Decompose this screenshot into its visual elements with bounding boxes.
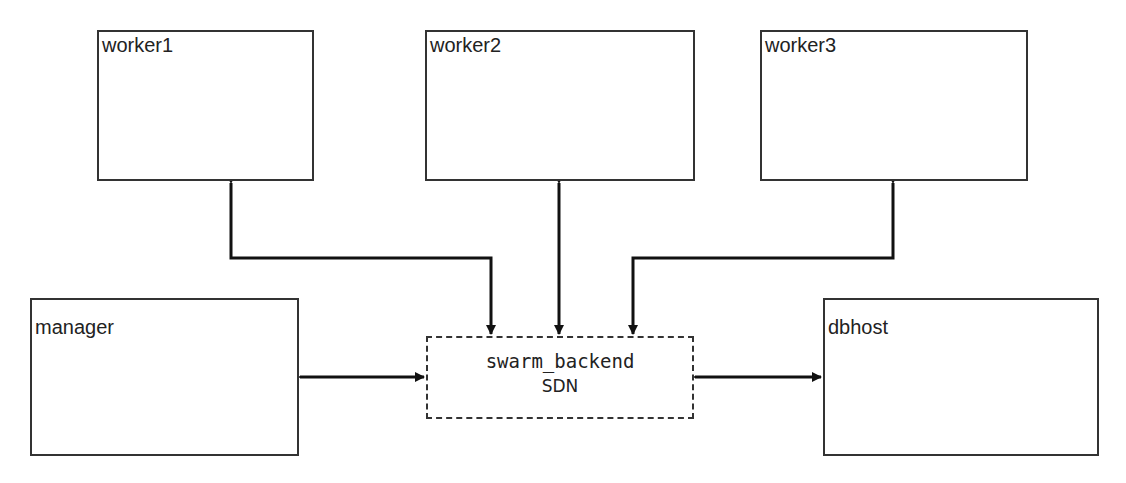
- network-diagram: worker1 worker2 worker3 manager dbhost s…: [0, 0, 1126, 483]
- node-dbhost: dbhost: [823, 298, 1099, 456]
- node-worker3: worker3: [760, 30, 1028, 181]
- node-worker2: worker2: [425, 30, 695, 181]
- node-swarm-backend: swarm_backend SDN: [426, 336, 694, 419]
- network-name: swarm_backend: [428, 350, 692, 372]
- network-type: SDN: [428, 376, 692, 396]
- node-worker1: worker1: [97, 30, 314, 181]
- node-label: worker2: [430, 34, 501, 57]
- node-label: manager: [35, 316, 114, 339]
- node-manager: manager: [30, 298, 299, 456]
- node-label: dbhost: [828, 316, 888, 339]
- node-label: worker3: [765, 34, 836, 57]
- node-label: worker1: [102, 34, 173, 57]
